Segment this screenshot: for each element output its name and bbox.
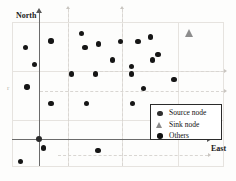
node-marker-other [129,64,134,69]
chart-legend: Source node Sink node Others [150,104,222,140]
node-marker-source [36,136,42,142]
legend-row: Others [151,130,223,142]
node-marker-other [110,57,115,62]
node-marker-other [79,31,84,36]
legend-label: Source node [169,109,206,117]
node-marker-other [48,101,53,106]
node-marker-other [141,86,146,91]
node-marker-other [135,39,140,44]
node-marker-other [24,84,29,89]
legend-marker [151,130,169,142]
other-node-circle-icon [157,133,163,139]
node-marker-other [69,71,74,76]
node-marker-other [32,62,37,67]
node-marker-other [48,38,53,43]
node-marker-other [93,71,98,76]
data-points-layer [0,0,236,181]
sink-node-triangle-icon [156,122,162,128]
node-marker-other [95,148,100,153]
scatter-plot-figure: r North East [0,0,236,181]
legend-label: Sink node [169,121,199,129]
node-marker-other [96,41,101,46]
node-marker-other [148,34,153,39]
legend-label: Others [169,132,189,140]
node-marker-other [129,71,134,76]
node-marker-other [150,57,155,62]
node-marker-other [130,101,135,106]
node-marker-other [41,145,46,150]
legend-row: Source node [151,107,223,119]
legend-marker [151,107,169,119]
node-marker-sink [185,29,193,37]
node-marker-other [82,45,87,50]
node-marker-other [18,159,23,164]
node-marker-other [118,39,123,44]
node-marker-other [84,101,89,106]
source-node-circle-icon [157,111,163,117]
node-marker-other [155,52,160,57]
node-marker-other [23,45,28,50]
node-marker-other [171,77,176,82]
